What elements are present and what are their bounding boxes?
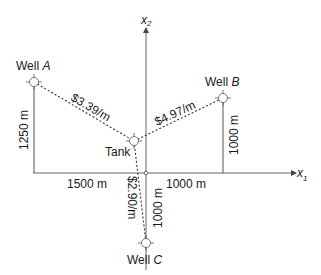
well-b-icon: [215, 90, 231, 106]
dim-left-width: 1500 m: [67, 177, 107, 191]
well-a-label: Well A: [16, 59, 50, 73]
dim-right-width: 1000 m: [166, 177, 206, 191]
well-tank-diagram: x1 x2 Well A Well B Well C Tank $3.39/m …: [0, 0, 321, 275]
cost-b-label: $4.97/m: [152, 98, 197, 129]
well-c-icon: [138, 235, 154, 251]
tank-label: Tank: [105, 145, 131, 159]
dim-c-depth: 1000 m: [151, 188, 165, 228]
origin-marker: [144, 171, 148, 175]
well-b-label: Well B: [205, 75, 239, 89]
cost-c-label: $2.90/m: [125, 176, 139, 219]
dim-a-height: 1250 m: [17, 110, 31, 150]
dim-b-height: 1000 m: [227, 115, 241, 155]
x1-axis-label: x1: [296, 166, 307, 183]
cost-a-label: $3.39/m: [69, 90, 114, 124]
well-a-icon: [26, 74, 42, 90]
well-c-label: Well C: [127, 253, 162, 267]
x2-axis-label: x2: [140, 13, 152, 28]
